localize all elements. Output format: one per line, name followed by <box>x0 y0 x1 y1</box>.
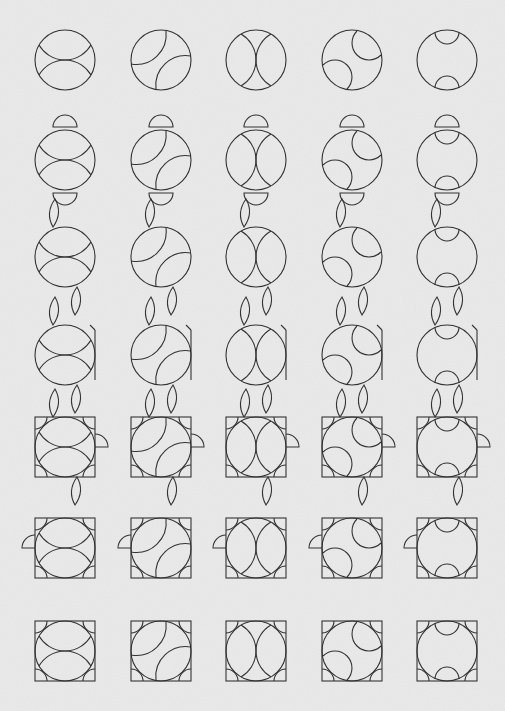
inner-arc <box>323 257 352 286</box>
leaf-top-left <box>240 389 249 417</box>
inner-arc <box>39 242 91 257</box>
inner-arc <box>435 273 459 285</box>
inner-arc <box>156 443 191 476</box>
corner-arc <box>322 465 334 477</box>
corner-arc <box>226 566 238 578</box>
corner-arc <box>417 465 429 477</box>
corner-arc <box>465 621 477 633</box>
corner-arc <box>465 669 477 681</box>
inner-arc <box>352 622 381 651</box>
inner-arc <box>241 231 256 283</box>
corner-arc <box>83 465 95 477</box>
corner-arc <box>179 621 191 633</box>
corner-arc <box>226 518 238 530</box>
corner-arc <box>274 518 286 530</box>
inner-arc <box>39 257 91 272</box>
corner-arc <box>322 417 334 429</box>
outer-circle <box>417 130 477 190</box>
figure-shapes <box>22 518 95 578</box>
inner-arc <box>39 160 91 175</box>
inner-arc <box>435 564 459 576</box>
inner-arc <box>256 134 271 186</box>
corner-arc <box>417 518 429 530</box>
corner-arc <box>465 566 477 578</box>
leaf-top-left <box>145 297 154 325</box>
inner-arc <box>131 418 166 451</box>
figure-shapes <box>35 30 95 90</box>
corner-arc <box>322 669 334 681</box>
outer-circle <box>417 621 477 681</box>
inner-arc <box>39 432 91 447</box>
side-tab <box>404 535 417 548</box>
outer-circle <box>131 518 191 578</box>
leaf-top-left <box>145 389 154 417</box>
side-tab-corner <box>472 325 477 330</box>
figure-shapes <box>309 518 382 578</box>
inner-arc <box>156 544 191 577</box>
corner-arc <box>274 465 286 477</box>
inner-arc <box>323 651 352 680</box>
inner-arc <box>256 625 271 677</box>
corner-arc <box>179 417 191 429</box>
figure-shapes <box>226 30 286 90</box>
corner-arc <box>131 465 143 477</box>
outer-circle <box>131 227 191 287</box>
corner-arc <box>131 518 143 530</box>
inner-arc <box>241 329 256 381</box>
corner-arc <box>83 518 95 530</box>
corner-arc <box>226 621 238 633</box>
inner-arc <box>435 327 459 339</box>
leaf-top-left <box>49 389 58 417</box>
corner-arc <box>131 417 143 429</box>
outer-circle <box>417 417 477 477</box>
inner-arc <box>156 351 191 384</box>
corner-arc <box>35 669 47 681</box>
side-tab-corner <box>186 325 191 330</box>
inner-arc <box>352 326 381 355</box>
side-tab-corner <box>90 325 95 330</box>
corner-arc <box>131 566 143 578</box>
side-tab-corner <box>377 325 382 330</box>
corner-arc <box>274 417 286 429</box>
inner-arc <box>241 34 256 86</box>
corner-arc <box>83 621 95 633</box>
top-cap <box>53 115 77 127</box>
inner-arc <box>39 60 91 75</box>
inner-arc <box>352 31 381 60</box>
inner-arc <box>156 56 191 89</box>
corner-arc <box>274 566 286 578</box>
inner-arc <box>435 463 459 475</box>
side-tab <box>22 535 35 548</box>
figure-shapes <box>35 621 95 681</box>
inner-arc <box>39 636 91 651</box>
figure-shapes <box>226 621 286 681</box>
leaf-top-left <box>431 389 440 417</box>
inner-arc <box>323 160 352 189</box>
outer-circle <box>417 518 477 578</box>
side-tab <box>477 434 490 447</box>
inner-arc <box>39 340 91 355</box>
leaf-top-left <box>336 389 345 417</box>
outer-circle <box>417 30 477 90</box>
inner-arc <box>156 156 191 189</box>
outer-circle <box>131 130 191 190</box>
inner-arc <box>131 31 166 64</box>
inner-arc <box>323 355 352 384</box>
corner-arc <box>131 621 143 633</box>
inner-arc <box>435 419 459 431</box>
corner-arc <box>465 465 477 477</box>
corner-arc <box>226 465 238 477</box>
corner-arc <box>179 518 191 530</box>
leaf-top-left <box>431 297 440 325</box>
corner-arc <box>370 465 382 477</box>
inner-arc <box>241 522 256 574</box>
corner-arc <box>179 566 191 578</box>
figure-shapes <box>118 518 191 578</box>
inner-arc <box>131 228 166 261</box>
side-tab-corner <box>281 325 286 330</box>
diagram-canvas <box>0 0 505 711</box>
inner-arc <box>352 418 381 447</box>
inner-arc <box>256 522 271 574</box>
corner-arc <box>83 669 95 681</box>
corner-arc <box>322 518 334 530</box>
